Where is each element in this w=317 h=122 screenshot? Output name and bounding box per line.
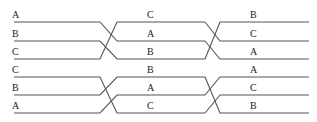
wire	[205, 95, 309, 113]
label: C	[147, 9, 154, 20]
permutation-diagram: A B C C A B B C A C B A B A C A C B	[0, 0, 317, 122]
label: A	[12, 9, 20, 20]
wire	[205, 22, 309, 41]
label: A	[147, 28, 155, 39]
label: C	[250, 28, 257, 39]
label: B	[12, 82, 19, 93]
label: B	[12, 28, 19, 39]
label: B	[147, 64, 154, 75]
wire	[14, 77, 205, 95]
wire	[14, 41, 205, 59]
label: A	[250, 46, 258, 57]
label: B	[147, 46, 154, 57]
label: B	[250, 100, 257, 111]
label: A	[250, 64, 258, 75]
label: C	[12, 64, 19, 75]
label: C	[250, 82, 257, 93]
label: A	[147, 82, 155, 93]
label: B	[250, 9, 257, 20]
label: A	[12, 100, 20, 111]
label: C	[12, 46, 19, 57]
label: C	[147, 100, 154, 111]
top-panel: A B C C A B B C A	[12, 9, 309, 59]
bottom-panel: C B A B A C A C B	[12, 64, 309, 113]
wire	[205, 77, 309, 95]
